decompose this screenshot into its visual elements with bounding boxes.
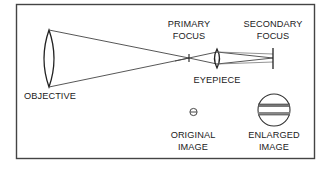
- label-original-image-line1: ORIGINAL: [171, 130, 216, 140]
- label-primary-focus-line2: FOCUS: [173, 31, 206, 41]
- ray-lower-objective: [49, 58, 189, 87]
- ray-cross-lower: [189, 58, 217, 64]
- label-eyepiece: EYEPIECE: [194, 75, 241, 85]
- ray-cross-upper: [189, 52, 217, 58]
- ray-extend-lower: [175, 58, 189, 61]
- label-secondary-focus-line1: SECONDARY: [244, 19, 303, 29]
- original-image-icon: [190, 108, 197, 115]
- objective-lens: [44, 30, 54, 87]
- label-enlarged-image-line1: ENLARGED: [248, 130, 300, 140]
- ray-upper-objective: [49, 30, 189, 58]
- enlarged-image-icon: [258, 94, 290, 126]
- label-primary-focus-line1: PRIMARY: [168, 19, 210, 29]
- label-enlarged-image-line2: IMAGE: [259, 142, 289, 152]
- label-secondary-focus-line2: FOCUS: [257, 31, 290, 41]
- label-original-image-line2: IMAGE: [178, 142, 208, 152]
- label-objective: OBJECTIVE: [24, 91, 76, 101]
- telescope-diagram: OBJECTIVE PRIMARY FOCUS SECONDARY FOCUS …: [0, 0, 331, 172]
